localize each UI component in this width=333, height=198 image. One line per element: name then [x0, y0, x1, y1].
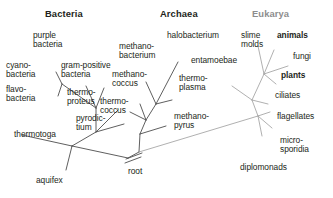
branch-eukarya-crown-stem: [252, 100, 258, 116]
branch-bacteria-crown: [72, 132, 96, 146]
branch-methanobacterium: [146, 82, 156, 104]
taxon-label-methanococcus: methano- coccus: [112, 70, 147, 88]
branch-ciliates: [252, 100, 268, 104]
taxon-label-thermoplasma: thermo- plasma: [179, 74, 208, 92]
taxon-label-flagellates: flagellates: [277, 112, 314, 121]
branch-halobacterium: [156, 62, 178, 104]
branch-methanopyrus: [140, 126, 166, 134]
branch-archaea-node2: [146, 104, 156, 120]
taxon-label-thermococcus: thermo- coccus: [100, 97, 129, 115]
taxon-label-gram-positive-bacteria: gram-positive bacteria: [61, 61, 111, 79]
taxon-label-ciliates: ciliates: [275, 91, 300, 100]
taxon-label-thermoproteus: thermo- proteus: [67, 88, 96, 106]
taxon-label-methanopyrus: methano- pyrus: [174, 112, 209, 130]
root-label: root: [128, 167, 142, 176]
branch-entamoebae: [232, 86, 252, 100]
branch-flavo-bacteria: [58, 84, 62, 96]
taxon-label-halobacterium: halobacterium: [167, 31, 219, 40]
taxon-label-flavo-bacteria: flavo- bacteria: [6, 85, 35, 103]
taxon-label-pyrodictium: pyrodic- tium: [76, 114, 105, 132]
taxon-label-diplomonads: diplomonads: [240, 163, 287, 172]
branch-plants: [264, 74, 276, 84]
branch-eukarya-crown: [252, 74, 264, 100]
taxon-label-methanobacterium: methano- bacterium: [119, 42, 155, 60]
domain-heading-archaea: Archaea: [160, 9, 198, 19]
taxon-label-microsporidia: micro- sporidia: [280, 136, 309, 154]
domain-heading-eukarya: Eukarya: [252, 9, 289, 19]
taxon-label-plants: plants: [281, 71, 305, 80]
branch-thermoplasma: [156, 100, 172, 104]
branch-aquifex: [66, 146, 72, 170]
taxon-label-entamoebae: entamoebae: [191, 56, 237, 65]
phylogenetic-tree-figure: Bacteria Archaea Eukarya purple bacteria…: [0, 0, 333, 198]
branch-flagellates: [258, 112, 270, 116]
taxon-label-purple-bacteria: purple bacteria: [33, 31, 62, 49]
branch-slime-molds: [258, 46, 264, 74]
taxon-label-thermotoga: thermotoga: [14, 130, 56, 139]
branch-bacteria-trunk: [72, 146, 128, 158]
taxon-label-animals: animals: [277, 31, 308, 40]
taxon-label-slime-molds: slime molds: [241, 31, 263, 49]
root-tick-upper: [126, 153, 142, 159]
taxon-label-fungi: fungi: [293, 52, 311, 61]
branch-archaea-trunk: [139, 134, 140, 152]
taxon-label-cyano-bacteria: cyano- bacteria: [6, 61, 35, 79]
taxon-label-aquifex: aquifex: [36, 176, 63, 185]
branch-archaea-node1: [140, 120, 146, 134]
domain-heading-bacteria: Bacteria: [45, 9, 83, 19]
branch-animals: [264, 50, 274, 74]
